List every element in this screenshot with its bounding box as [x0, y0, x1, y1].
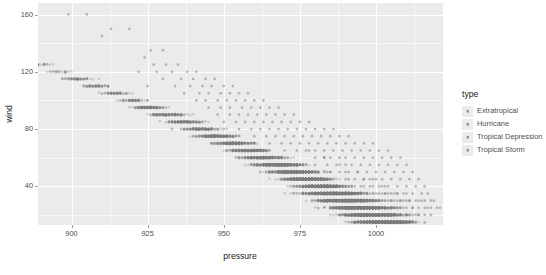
x-axis-tick-label: 975: [294, 230, 306, 237]
y-axis-tick-label: 80: [25, 125, 33, 132]
x-axis-tick-label: 1000: [368, 230, 384, 237]
x-axis-tick-mark: [376, 225, 377, 228]
legend-item-label: Tropical Storm: [477, 146, 525, 153]
x-axis-tick-mark: [148, 225, 149, 228]
y-axis-tick-label: 40: [25, 183, 33, 190]
y-axis-tick-label: 160: [21, 11, 33, 18]
legend-key-point-icon: [462, 119, 473, 130]
x-axis-tick-mark: [224, 225, 225, 228]
legend-item-label: Hurricane: [477, 120, 509, 127]
legend-item[interactable]: Tropical Depression: [462, 131, 542, 144]
scatter-plot-figure: pressure wind type ExtratropicalHurrican…: [0, 0, 546, 275]
legend-key-point-icon: [462, 132, 473, 143]
x-axis-tick-mark: [72, 225, 73, 228]
legend-item-label: Extratropical: [477, 107, 518, 114]
legend-items: ExtratropicalHurricaneTropical Depressio…: [462, 105, 542, 157]
y-axis-tick-mark: [35, 186, 38, 187]
plot-panel: [38, 3, 443, 225]
y-axis-tick-label: 120: [21, 68, 33, 75]
x-axis-tick-label: 925: [141, 230, 153, 237]
scatter-points: [38, 3, 443, 225]
legend-key-point-icon: [462, 106, 473, 117]
legend-key-point-icon: [462, 145, 473, 156]
y-axis-title: wind: [5, 105, 14, 123]
x-axis-tick-mark: [300, 225, 301, 228]
y-axis-tick-mark: [35, 129, 38, 130]
y-axis-tick-mark: [35, 15, 38, 16]
legend-item-label: Tropical Depression: [477, 133, 542, 140]
legend-item[interactable]: Hurricane: [462, 118, 542, 131]
x-axis-title: pressure: [223, 252, 256, 261]
legend: type ExtratropicalHurricaneTropical Depr…: [462, 90, 542, 157]
legend-item[interactable]: Tropical Storm: [462, 144, 542, 157]
legend-item[interactable]: Extratropical: [462, 105, 542, 118]
x-axis-tick-label: 950: [218, 230, 230, 237]
y-axis-tick-mark: [35, 72, 38, 73]
x-axis-tick-label: 900: [65, 230, 77, 237]
legend-title: type: [462, 90, 542, 99]
data-points-layer: [38, 3, 443, 225]
